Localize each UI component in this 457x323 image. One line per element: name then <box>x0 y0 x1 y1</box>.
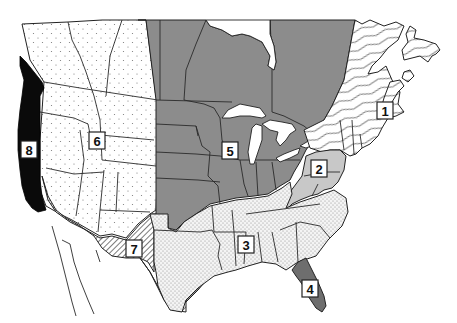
label-region-3: 3 <box>238 236 254 253</box>
label-region-2-text: 2 <box>315 162 322 177</box>
label-region-8-text: 8 <box>25 143 32 158</box>
label-region-7: 7 <box>126 240 142 257</box>
label-region-3-text: 3 <box>242 238 249 253</box>
label-region-6-text: 6 <box>93 134 100 149</box>
north-america-region-map: 1 2 3 4 5 6 7 8 <box>0 0 457 323</box>
label-region-4: 4 <box>302 280 318 297</box>
label-region-5: 5 <box>222 142 238 159</box>
label-region-1-text: 1 <box>381 104 388 119</box>
map-svg: 1 2 3 4 5 6 7 8 <box>0 0 457 323</box>
label-region-2: 2 <box>311 160 327 177</box>
label-region-7-text: 7 <box>130 242 137 257</box>
label-region-4-text: 4 <box>306 282 314 297</box>
label-region-5-text: 5 <box>226 144 233 159</box>
label-region-6: 6 <box>89 132 105 149</box>
label-region-1: 1 <box>377 102 393 119</box>
label-region-8: 8 <box>21 141 37 158</box>
